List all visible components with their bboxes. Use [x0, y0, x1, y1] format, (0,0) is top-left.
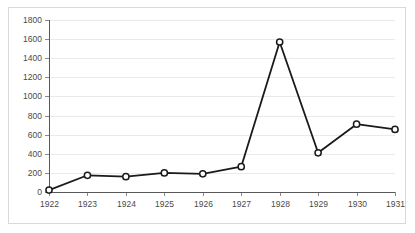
x-axis-tick-label: 1923 — [78, 199, 97, 209]
data-point-marker — [277, 39, 283, 45]
x-axis-tick-label: 1928 — [271, 199, 290, 209]
x-axis-tick-label: 1925 — [155, 199, 174, 209]
y-axis-tick-label: 1000 — [23, 91, 42, 101]
x-axis-tick-label: 1922 — [40, 199, 59, 209]
y-axis-tick-label: 200 — [28, 168, 42, 178]
data-point-marker — [161, 170, 167, 176]
y-axis-labels-group: 020040060080010001200140016001800 — [23, 15, 42, 197]
y-axis-tick-label: 0 — [37, 187, 42, 197]
x-axis-tick-label: 1924 — [117, 199, 136, 209]
x-axis-tick-label: 1930 — [348, 199, 367, 209]
data-point-marker — [200, 171, 206, 177]
gridlines-group — [49, 21, 395, 174]
x-axis-labels-group: 1922192319241925192619271928192919301931 — [40, 199, 405, 209]
y-axis-tick-label: 1200 — [23, 72, 42, 82]
data-point-marker — [392, 126, 398, 132]
x-axis-tick-label: 1929 — [309, 199, 328, 209]
line-chart: 020040060080010001200140016001800 192219… — [9, 8, 407, 225]
y-axis-tick-label: 400 — [28, 149, 42, 159]
data-point-marker — [353, 121, 359, 127]
x-axis-tick-label: 1926 — [194, 199, 213, 209]
y-axis-tick-label: 800 — [28, 111, 42, 121]
data-point-marker — [84, 172, 90, 178]
y-axis-ticks-group — [45, 21, 49, 193]
data-point-marker — [46, 187, 52, 193]
y-axis-tick-label: 1600 — [23, 34, 42, 44]
y-axis-tick-label: 1400 — [23, 53, 42, 63]
x-axis-tick-label: 1927 — [232, 199, 251, 209]
chart-canvas: 020040060080010001200140016001800 192219… — [9, 8, 407, 225]
x-axis-tick-label: 1931 — [386, 199, 405, 209]
chart-frame: 020040060080010001200140016001800 192219… — [8, 7, 406, 224]
data-point-marker — [123, 174, 129, 180]
data-point-marker — [315, 150, 321, 156]
y-axis-tick-label: 600 — [28, 130, 42, 140]
y-axis-tick-label: 1800 — [23, 15, 42, 25]
data-point-marker — [238, 164, 244, 170]
